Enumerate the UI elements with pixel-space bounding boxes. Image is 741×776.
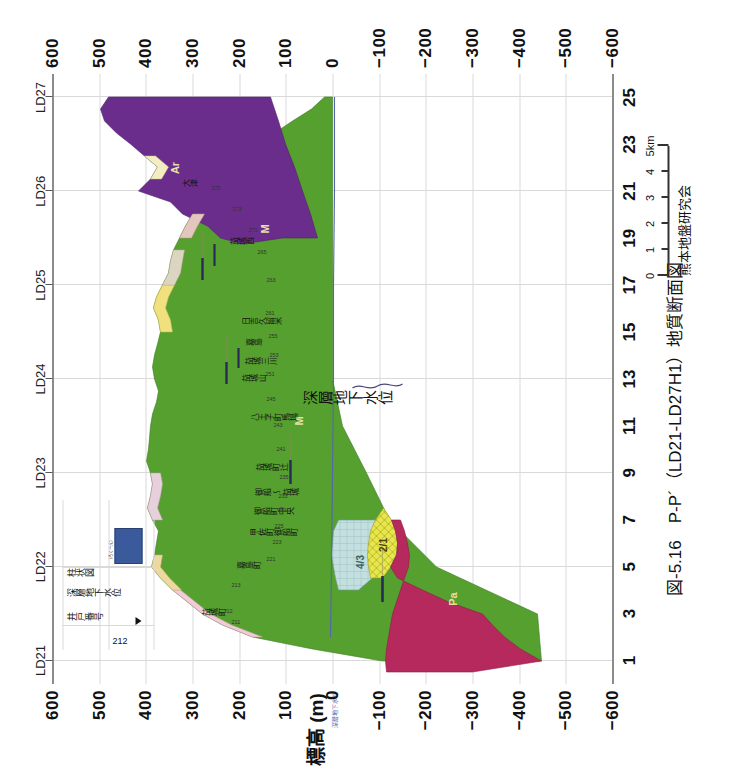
legend-column-caption: （ろくーん） xyxy=(106,538,112,562)
section-tick-mark xyxy=(45,472,52,473)
y-tick-label: −500 xyxy=(555,690,575,730)
x-tick-label: 23 xyxy=(619,135,639,154)
section-id-label: LD25 xyxy=(32,270,47,301)
y-tick-label-secondary: −400 xyxy=(509,28,529,68)
scale-bar-label: 5km xyxy=(643,136,655,157)
section-id-label: LD22 xyxy=(32,551,47,582)
y-tick-label: −400 xyxy=(509,690,529,730)
well-number-label: 231 xyxy=(277,508,286,514)
place-name-label: 嘉島町 xyxy=(236,563,260,571)
y-tick-label: 0 xyxy=(322,690,342,700)
scale-bar-tick xyxy=(657,275,668,277)
place-name-label: 益城三川 xyxy=(244,359,276,367)
place-name-label: 御船町中央 xyxy=(253,509,293,517)
legend-well-marker-icon xyxy=(135,617,141,625)
y-tick-label-secondary: −200 xyxy=(415,28,435,68)
x-tick-label: 21 xyxy=(619,182,639,201)
scale-bar-tick xyxy=(661,197,668,199)
y-tick-label-secondary: 500 xyxy=(89,38,109,68)
section-tick-mark xyxy=(45,566,52,567)
well-number-label: 235 xyxy=(279,475,288,481)
figure-page: 標高 (m) xyxy=(0,0,741,776)
place-name-label: 益城町辻 xyxy=(255,464,287,472)
y-tick-label-secondary: 0 xyxy=(322,58,342,68)
legend-well-number-value: 212 xyxy=(112,636,127,646)
x-tick-label: 3 xyxy=(619,609,639,618)
y-tick-label-secondary: 400 xyxy=(135,38,155,68)
well-number-label: 221 xyxy=(266,557,275,563)
scale-bar: 012345km 熊本地盤研究会 xyxy=(645,126,691,276)
well-number-label: 211 xyxy=(231,620,240,626)
place-name-label: 大津 xyxy=(181,180,197,188)
y-tick-label: −600 xyxy=(602,690,622,730)
place-name-label: 益城西 xyxy=(229,239,253,247)
scale-bar-tick xyxy=(661,171,668,173)
section-tick-mark xyxy=(45,284,52,285)
legend-well-number-label: 井戸番号 xyxy=(66,609,102,622)
legend-groundwater-label: 深層地下水位 xyxy=(66,585,120,598)
y-tick-label: −100 xyxy=(369,690,389,730)
section-id-label: LD21 xyxy=(32,645,47,676)
legend-column-label: 柱状図 xyxy=(66,565,93,578)
well-number-label: 251 xyxy=(265,372,274,378)
scale-bar-tick xyxy=(661,223,668,225)
y-tick-label: 400 xyxy=(135,690,155,720)
y-tick-label-secondary: −300 xyxy=(462,28,482,68)
section-tick-mark xyxy=(45,96,52,97)
y-tick-label-secondary: 300 xyxy=(182,38,202,68)
place-name-label: 御船 ～ 益城 xyxy=(254,490,298,498)
well-number-label: 265 xyxy=(257,250,266,256)
y-tick-label-secondary: −100 xyxy=(369,28,389,68)
well-number-label: 233 xyxy=(278,494,287,500)
scale-bar-tick xyxy=(657,145,668,147)
x-tick-label: 19 xyxy=(619,229,639,248)
well-number-label: 245 xyxy=(266,397,275,403)
rotated-figure-stage: 標高 (m) xyxy=(0,0,741,776)
x-tick-label: 5 xyxy=(619,562,639,571)
place-name-label: 甲佐町御船町 xyxy=(249,530,297,538)
section-tick-mark xyxy=(45,190,52,191)
well-number-label: 253 xyxy=(269,353,278,359)
well-number-label: 261 xyxy=(265,311,274,317)
section-id-label: LD26 xyxy=(32,176,47,207)
place-name-label: 日吉久留米 xyxy=(241,319,281,327)
y-tick-label: 200 xyxy=(229,690,249,720)
well-number-label: 255 xyxy=(268,334,277,340)
well-number-label: 213 xyxy=(231,583,240,589)
section-tick-mark xyxy=(45,378,52,379)
y-tick-label: 600 xyxy=(42,690,62,720)
well-number-label: 275 xyxy=(211,186,220,192)
well-number-label: 212 xyxy=(223,609,232,615)
section-id-label: LD27 xyxy=(32,82,47,113)
scale-bar-tick xyxy=(661,249,668,251)
figure-caption: 図-5.16 P-P´（LD21-LD27H1）地質断面図 xyxy=(660,262,685,596)
organization-label: 熊本地盤研究会 xyxy=(673,185,692,276)
place-name-label: 嘉島 xyxy=(245,340,261,348)
well-number-label: 243 xyxy=(273,423,282,429)
section-id-label: LD23 xyxy=(32,457,47,488)
well-number-label: 225 xyxy=(274,524,283,530)
scale-bar-label: 3 xyxy=(643,195,655,201)
groundwater-callout-label: 深層地下水位 xyxy=(302,387,392,408)
scale-bar-label: 2 xyxy=(643,221,655,227)
y-tick-label: −300 xyxy=(462,690,482,730)
y-tick-label: 300 xyxy=(182,690,202,720)
legend-column-swatch xyxy=(114,528,142,564)
x-tick-label: 17 xyxy=(619,276,639,295)
y-tick-label-secondary: −500 xyxy=(555,28,575,68)
x-tick-label: 7 xyxy=(619,515,639,524)
place-name-label: 益城町 xyxy=(201,610,225,618)
well-number-label: 271 xyxy=(248,228,257,234)
y-tick-label-secondary: 100 xyxy=(275,38,295,68)
legend-box: 井戸番号 深層地下水位 柱状図 212 （ろくーん） xyxy=(62,500,154,650)
unit-Ar-polygon xyxy=(100,97,317,244)
well-number-label: 263 xyxy=(266,278,275,284)
cross-section-plot: Ar M M Pa 4/3 2/1 深層地下水位 深層地下水位 井戸番号 深層地… xyxy=(52,74,612,684)
scale-bar-label: 1 xyxy=(643,247,655,253)
x-tick-label: 1 xyxy=(619,656,639,665)
place-name-label: 益城山 xyxy=(241,375,265,383)
well-number-label: 223 xyxy=(272,540,281,546)
y-tick-label: 100 xyxy=(275,690,295,720)
y-tick-label-secondary: 200 xyxy=(229,38,249,68)
x-tick-label: 25 xyxy=(619,88,639,107)
